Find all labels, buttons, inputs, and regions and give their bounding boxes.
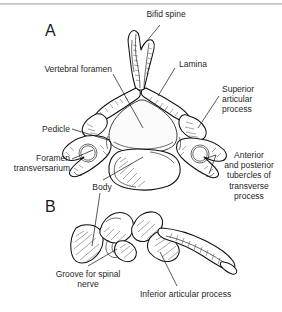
label-anterior-posterior-tubercles: Anterior and posterior tubercles of tran… — [218, 150, 280, 201]
label-bifid-spine: Bifid spine — [129, 9, 203, 19]
anatomical-figure: A B — [0, 0, 282, 312]
label-pedicle: Pedicle — [8, 124, 70, 134]
label-body: Body — [79, 182, 125, 192]
panel-a-drawing — [63, 31, 227, 190]
label-vertebral-foramen: Vertebral foramen — [12, 64, 112, 74]
label-foramen-transversarium: Foramen transversarium — [2, 153, 70, 173]
label-inferior-articular-process: Inferior articular process — [140, 289, 280, 299]
label-superior-articular-process: Superior articular process — [222, 84, 280, 115]
label-lamina: Lamina — [179, 59, 229, 69]
label-groove-for-spinal-nerve: Groove for spinal nerve — [38, 269, 138, 289]
